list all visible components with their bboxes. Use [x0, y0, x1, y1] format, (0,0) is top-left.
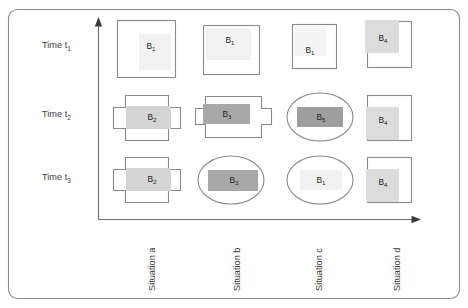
cell-t1-d: B4	[365, 20, 412, 68]
column-label-d: Situation d	[392, 248, 402, 291]
row-labels: Time t1 Time t2 Time t3	[42, 40, 71, 184]
cell-t2-d: B4	[366, 96, 412, 141]
cell-t1-b: B1	[204, 26, 260, 75]
figure-root: Time t1 Time t2 Time t3 Situation a Situ…	[0, 0, 468, 308]
cell-t1-c: B1	[293, 25, 337, 69]
column-labels: Situation a Situation b Situation c Situ…	[147, 247, 402, 291]
cell-t2-a: B2	[114, 96, 181, 141]
cell-t3-a: B2	[114, 158, 181, 203]
cell-t3-b: B3	[198, 156, 264, 204]
column-label-a: Situation a	[147, 247, 157, 291]
row-label-t2: Time t2	[42, 109, 71, 121]
time-situation-diagram: Time t1 Time t2 Time t3 Situation a Situ…	[0, 0, 468, 308]
cell-t2-b: B3	[196, 97, 272, 138]
row-label-t1: Time t1	[42, 40, 71, 52]
cell-t2-c: B5	[287, 93, 353, 141]
cell-t3-d: B4	[366, 158, 412, 203]
column-label-b: Situation b	[232, 248, 242, 291]
cell-t3-c: B1	[287, 156, 353, 204]
cell-t1-a: B1	[118, 21, 176, 78]
time-axis-arrow	[95, 17, 102, 27]
column-label-c: Situation c	[314, 248, 324, 291]
row-label-t3: Time t3	[42, 172, 71, 184]
situation-axis-arrow	[412, 216, 422, 223]
